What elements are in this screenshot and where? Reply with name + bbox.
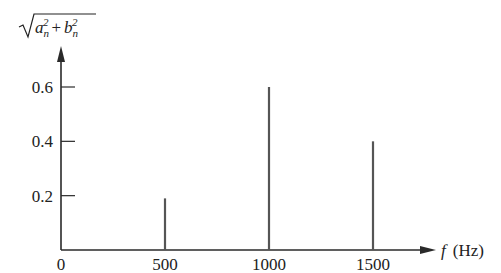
spectrum-chart: an2+bn2 0.20.40.6050010001500 f(Hz) — [0, 0, 501, 273]
stems — [165, 87, 373, 250]
axes — [57, 46, 436, 254]
x-tick-label: 1000 — [252, 255, 286, 273]
y-axis-label: an2+bn2 — [19, 14, 96, 39]
y-tick-label: 0.2 — [32, 187, 53, 206]
y-tick-label: 0.6 — [32, 78, 53, 97]
y-axis-arrow-icon — [57, 46, 65, 62]
x-tick-label: 0 — [57, 255, 66, 273]
x-axis-arrow-icon — [420, 246, 436, 254]
y-tick-label: 0.4 — [32, 132, 54, 151]
svg-text:an2+bn2: an2+bn2 — [35, 16, 79, 39]
ticks: 0.20.40.6050010001500 — [32, 78, 390, 273]
x-tick-label: 500 — [152, 255, 178, 273]
x-axis-label: f(Hz) — [441, 241, 484, 260]
x-tick-label: 1500 — [356, 255, 390, 273]
